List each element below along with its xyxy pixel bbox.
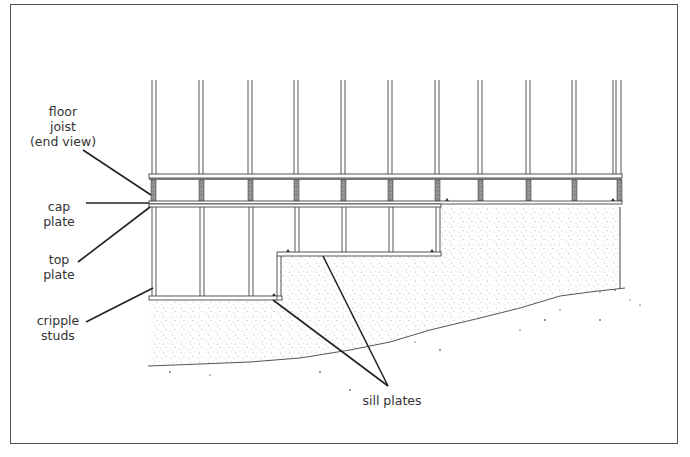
floor-joists — [151, 180, 622, 201]
sill-plate-lower — [149, 296, 282, 300]
framing-diagram — [0, 0, 690, 457]
label-cap-plate: cap plate — [34, 199, 84, 229]
label-floor-joist: floor joist (end view) — [28, 104, 98, 149]
upper-wall-studs — [152, 80, 621, 174]
top-plate — [149, 204, 441, 207]
label-cripple-studs: cripple studs — [30, 313, 86, 343]
subfloor — [149, 174, 622, 178]
label-sill-plates: sill plates — [352, 393, 432, 408]
rim-joist — [149, 178, 622, 180]
foundation-concrete — [150, 207, 620, 366]
sill-plate-upper — [277, 252, 441, 256]
label-top-plate: top plate — [34, 252, 84, 282]
